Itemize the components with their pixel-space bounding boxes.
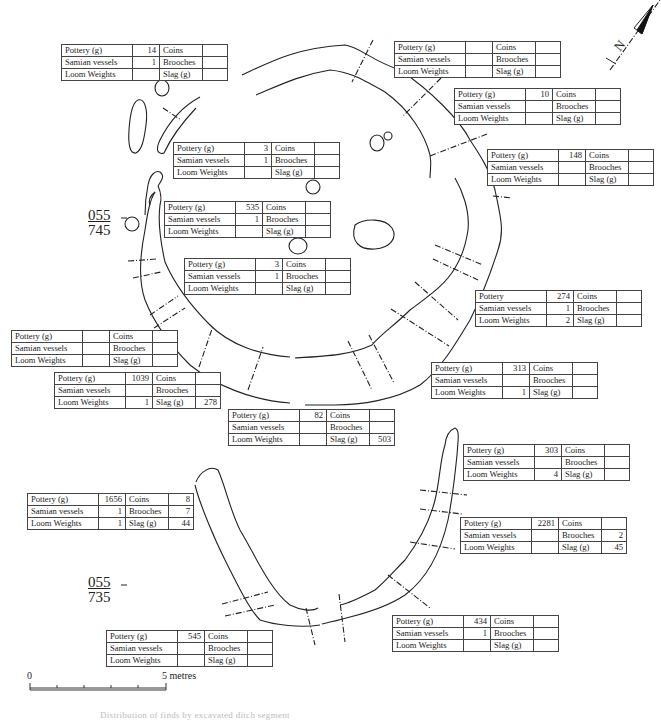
slag-value: 278 <box>196 397 221 409</box>
loom-value <box>83 355 110 367</box>
brooches-value <box>629 162 654 174</box>
coins-label: Coins <box>283 259 326 271</box>
pottery-value: 10 <box>526 89 553 101</box>
brooches-label: Brooches <box>272 155 315 167</box>
samian-label: Samian vessels <box>461 530 532 542</box>
loom-label: Loom Weights <box>174 167 245 179</box>
slag-label: Slag (g) <box>160 69 203 81</box>
slag-value: 45 <box>602 542 627 554</box>
samian-value <box>503 375 530 387</box>
slag-label: Slag (g) <box>126 518 169 530</box>
samian-label: Samian vessels <box>12 343 83 355</box>
pottery-label: Pottery (g) <box>165 202 236 214</box>
brooches-value <box>203 57 228 69</box>
pottery-value: 3 <box>256 259 283 271</box>
brooches-value <box>617 303 642 315</box>
brooches-label: Brooches <box>283 271 326 283</box>
brooches-value <box>248 643 273 655</box>
slag-value <box>326 283 351 295</box>
brooches-value <box>534 628 559 640</box>
finds-table: Pottery (g)1039Coins Samian vesselsBrooc… <box>54 372 221 409</box>
samian-label: Samian vessels <box>62 57 133 69</box>
lower-ditch-east-outer <box>322 428 458 624</box>
samian-value <box>178 643 205 655</box>
loom-value: 1 <box>99 518 126 530</box>
finds-table: Pottery (g)3Coins Samian vessels1Brooche… <box>173 142 340 179</box>
loom-label: Loom Weights <box>28 518 99 530</box>
pottery-label: Pottery (g) <box>28 494 99 506</box>
slag-label: Slag (g) <box>586 174 629 186</box>
loom-value <box>133 69 160 81</box>
pottery-value: 2281 <box>532 518 559 530</box>
slag-label: Slag (g) <box>553 113 596 125</box>
brooches-label: Brooches <box>126 506 169 518</box>
loom-value <box>236 226 263 238</box>
coins-label: Coins <box>586 150 629 162</box>
finds-table: Pottery (g)14Coins Samian vessels1Brooch… <box>61 44 228 81</box>
grid-ref-easting: 055 <box>88 575 111 590</box>
pottery-value <box>466 42 493 54</box>
coins-value <box>153 331 178 343</box>
slag-value <box>573 387 598 399</box>
finds-table: Pottery (g)303Coins Samian vesselsBrooch… <box>463 444 630 481</box>
coins-label: Coins <box>110 331 153 343</box>
finds-table: Pottery274Coins Samian vessels1Brooches … <box>475 290 642 327</box>
grid-reference: 055 745 <box>88 208 111 238</box>
pottery-value <box>83 331 110 343</box>
loom-label: Loom Weights <box>107 655 178 667</box>
pottery-label: Pottery <box>476 291 547 303</box>
coins-label: Coins <box>272 143 315 155</box>
brooches-label: Brooches <box>160 57 203 69</box>
coins-value <box>534 616 559 628</box>
slag-label: Slag (g) <box>559 542 602 554</box>
coins-value <box>306 202 331 214</box>
slag-value <box>629 174 654 186</box>
pit <box>370 135 384 151</box>
brooches-value <box>315 155 340 167</box>
pottery-label: Pottery (g) <box>229 410 300 422</box>
pottery-label: Pottery (g) <box>55 373 126 385</box>
brooches-label: Brooches <box>491 628 534 640</box>
brooches-label: Brooches <box>530 375 573 387</box>
brooches-label: Brooches <box>562 457 605 469</box>
loom-label: Loom Weights <box>12 355 83 367</box>
scale-start-label: 0 <box>27 670 32 681</box>
samian-value: 1 <box>133 57 160 69</box>
samian-label: Samian vessels <box>174 155 245 167</box>
samian-value <box>535 457 562 469</box>
loom-value <box>466 66 493 78</box>
loom-value <box>178 655 205 667</box>
svg-text:N: N <box>611 37 629 54</box>
loom-label: Loom Weights <box>461 542 532 554</box>
pottery-label: Pottery (g) <box>62 45 133 57</box>
grid-reference: 055 735 <box>88 575 111 605</box>
coins-label: Coins <box>562 445 605 457</box>
loom-label: Loom Weights <box>395 66 466 78</box>
samian-value: 1 <box>547 303 574 315</box>
loom-label: Loom Weights <box>455 113 526 125</box>
loom-label: Loom Weights <box>62 69 133 81</box>
samian-label: Samian vessels <box>55 385 126 397</box>
loom-value <box>526 113 553 125</box>
grid-ref-northing: 735 <box>88 590 111 605</box>
brooches-value <box>573 375 598 387</box>
pottery-value: 545 <box>178 631 205 643</box>
brooches-value <box>605 457 630 469</box>
pit <box>289 238 307 254</box>
samian-value: 1 <box>245 155 272 167</box>
coins-label: Coins <box>574 291 617 303</box>
coins-value: 8 <box>169 494 194 506</box>
coins-label: Coins <box>559 518 602 530</box>
slag-label: Slag (g) <box>562 469 605 481</box>
coins-value <box>596 89 621 101</box>
large-pit <box>354 220 394 249</box>
finds-table: Pottery (g)82Coins Samian vesselsBrooche… <box>228 409 395 446</box>
loom-value <box>464 640 491 652</box>
samian-label: Samian vessels <box>165 214 236 226</box>
loom-label: Loom Weights <box>464 469 535 481</box>
brooches-value <box>153 343 178 355</box>
samian-label: Samian vessels <box>432 375 503 387</box>
loom-value <box>300 434 327 446</box>
pottery-label: Pottery (g) <box>174 143 245 155</box>
brooches-value <box>326 271 351 283</box>
